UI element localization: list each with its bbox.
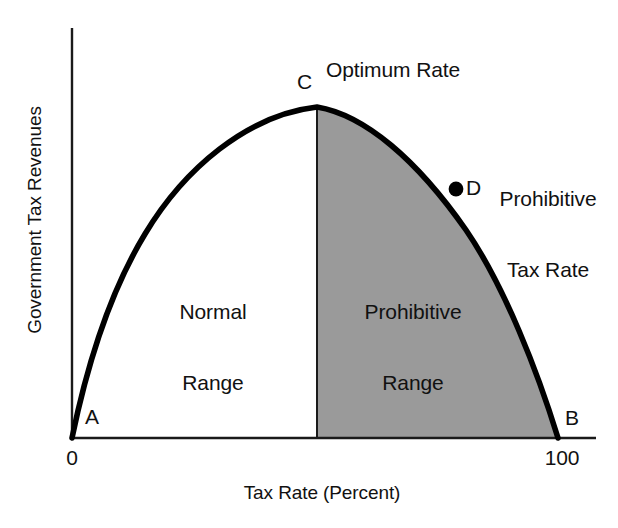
point-b-label: B — [565, 406, 579, 430]
normal-range-label: Normal Range — [147, 253, 279, 441]
point-a-label: A — [85, 405, 99, 429]
normal-range-line-2: Range — [147, 371, 279, 395]
prohibitive-range-label: Prohibitive Range — [338, 253, 488, 441]
y-axis-title: Government Tax Revenues — [24, 20, 54, 420]
prohibitive-tax-rate-annotation: Prohibitive Tax Rate — [487, 140, 609, 328]
x-axis-tick-100: 100 — [527, 446, 597, 470]
point-d-label: D — [466, 176, 481, 200]
optimum-rate-annotation: Optimum Rate — [326, 58, 460, 82]
x-axis-title: Tax Rate (Percent) — [172, 482, 472, 503]
prohibitive-range-line-2: Range — [338, 371, 488, 395]
laffer-curve-figure: Government Tax Revenues Tax Rate (Percen… — [0, 0, 618, 528]
point-d-marker — [449, 182, 464, 197]
x-axis-tick-0: 0 — [55, 446, 89, 470]
prohibitive-range-line-1: Prohibitive — [338, 300, 488, 324]
prohibitive-tax-rate-line-1: Prohibitive — [487, 187, 609, 211]
normal-range-line-1: Normal — [147, 300, 279, 324]
prohibitive-tax-rate-line-2: Tax Rate — [487, 258, 609, 282]
point-c-label: C — [297, 70, 312, 94]
